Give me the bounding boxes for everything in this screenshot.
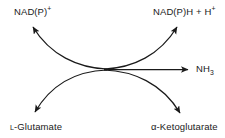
reaction-diagram: NAD(P)+ NAD(P)H + H+ L-Glutamate α-Ketog…	[0, 0, 225, 138]
label-nadp-oxidized-superscript: +	[47, 5, 51, 12]
label-nadph-reduced: NAD(P)H + H+	[153, 7, 215, 17]
reaction-arrows-svg	[0, 0, 225, 138]
label-alpha-ketoglutarate: α-Ketoglutarate	[151, 122, 218, 132]
label-nadph-reduced-superscript: +	[211, 5, 215, 12]
label-ammonia-text: NH	[196, 63, 210, 74]
label-l-glutamate-text: -Glutamate	[14, 121, 62, 132]
label-nadp-oxidized: NAD(P)+	[14, 7, 51, 17]
arrow-center-to-ketoglutarate	[104, 70, 180, 113]
label-ammonia: NH3	[196, 64, 214, 74]
label-ammonia-subscript: 3	[210, 69, 214, 76]
arrow-center-to-cofactor-out	[104, 27, 177, 69]
arrow-center-to-glutamate	[35, 70, 107, 112]
label-l-glutamate: L-Glutamate	[10, 122, 62, 132]
label-alpha-ketoglutarate-text: α-Ketoglutarate	[151, 121, 218, 132]
label-nadp-oxidized-text: NAD(P)	[14, 6, 47, 17]
label-nadph-reduced-text: NAD(P)H + H	[153, 6, 211, 17]
arrow-cofactor-in-to-center	[33, 27, 107, 69]
